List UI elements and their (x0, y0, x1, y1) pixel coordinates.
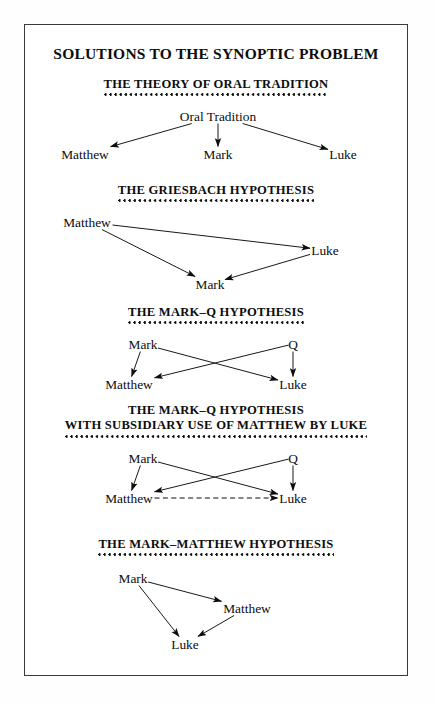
heading-line: THE THEORY OF ORAL TRADITION (104, 77, 329, 92)
edge-matthew-to-luke (198, 616, 234, 637)
node-label-luke: Luke (311, 243, 339, 258)
edge-mark-to-matthew (132, 465, 141, 490)
node-label-mark: Mark (118, 571, 147, 586)
dotted-underline (128, 321, 304, 324)
page-canvas: SOLUTIONS TO THE SYNOPTIC PROBLEM THE TH… (0, 0, 434, 704)
node-label-mark: Mark (128, 451, 157, 466)
dotted-underline (104, 93, 329, 96)
diagram-griesbach: MatthewLukeMark (25, 202, 409, 310)
section-heading-oral-tradition: THE THEORY OF ORAL TRADITION (25, 77, 407, 96)
node-label-mark: Mark (203, 147, 232, 162)
edge-mark-to-matthew (132, 352, 141, 377)
node-label-mark: Mark (195, 277, 224, 292)
edge-mark-to-matthew (148, 582, 222, 601)
heading-rule-wrap: THE MARK–MATTHEW HYPOTHESIS (98, 537, 333, 556)
node-label-matthew: Matthew (105, 377, 153, 392)
node-label-luke: Luke (279, 377, 307, 392)
diagram-section-mark-q-subsidiary: THE MARK–Q HYPOTHESISWITH SUBSIDIARY USE… (25, 403, 407, 546)
node-label-matthew: Matthew (61, 147, 109, 162)
node-label-matthew: Matthew (105, 491, 153, 506)
edge-oral-to-matthew (111, 124, 192, 147)
section-heading-mark-q: THE MARK–Q HYPOTHESIS (25, 305, 407, 324)
heading-line: THE MARK–Q HYPOTHESIS (65, 403, 368, 418)
diagram-section-griesbach: THE GRIESBACH HYPOTHESISMatthewLukeMark (25, 183, 407, 310)
edge-luke-to-mark (225, 255, 310, 280)
edge-mark-to-luke (158, 348, 278, 380)
section-heading-mark-matthew: THE MARK–MATTHEW HYPOTHESIS (25, 537, 407, 556)
dotted-underline (98, 553, 333, 556)
node-label-matthew: Matthew (223, 601, 271, 616)
section-heading-mark-q-subsidiary: THE MARK–Q HYPOTHESISWITH SUBSIDIARY USE… (25, 403, 407, 438)
heading-rule-wrap: THE MARK–Q HYPOTHESISWITH SUBSIDIARY USE… (65, 403, 368, 438)
node-label-luke: Luke (279, 491, 307, 506)
dotted-underline (65, 435, 368, 438)
node-label-q: Q (288, 337, 298, 352)
diagram-section-mark-matthew: THE MARK–MATTHEW HYPOTHESISMarkMatthewLu… (25, 537, 407, 664)
edge-mark-to-luke (139, 586, 179, 637)
heading-rule-wrap: THE MARK–Q HYPOTHESIS (128, 305, 304, 324)
section-heading-griesbach: THE GRIESBACH HYPOTHESIS (25, 183, 407, 202)
page-title: SOLUTIONS TO THE SYNOPTIC PROBLEM (25, 45, 407, 63)
node-label-matthew: Matthew (63, 215, 111, 230)
edge-q-to-matthew (155, 345, 289, 378)
edge-mark-to-luke (158, 462, 278, 494)
heading-line: WITH SUBSIDIARY USE OF MATTHEW BY LUKE (65, 418, 368, 433)
edge-matthew-to-mark (102, 230, 195, 277)
node-label-mark: Mark (128, 337, 157, 352)
diagram-mark-q-subsidiary: MarkQMatthewLuke (25, 438, 409, 546)
edge-q-to-matthew (155, 459, 289, 492)
node-label-q: Q (288, 451, 298, 466)
heading-line: THE MARK–Q HYPOTHESIS (128, 305, 304, 320)
edge-oral-to-luke (243, 124, 328, 150)
node-label-luke: Luke (171, 637, 199, 652)
edge-matthew-to-luke (113, 225, 311, 248)
node-label-luke: Luke (329, 147, 357, 162)
heading-line: THE MARK–MATTHEW HYPOTHESIS (98, 537, 333, 552)
heading-rule-wrap: THE THEORY OF ORAL TRADITION (104, 77, 329, 96)
diagram-mark-matthew: MarkMatthewLuke (25, 556, 409, 664)
dotted-underline (118, 199, 314, 202)
node-label-oral: Oral Tradition (180, 109, 257, 124)
heading-line: THE GRIESBACH HYPOTHESIS (118, 183, 314, 198)
content-frame: SOLUTIONS TO THE SYNOPTIC PROBLEM THE TH… (24, 24, 408, 676)
heading-rule-wrap: THE GRIESBACH HYPOTHESIS (118, 183, 314, 202)
